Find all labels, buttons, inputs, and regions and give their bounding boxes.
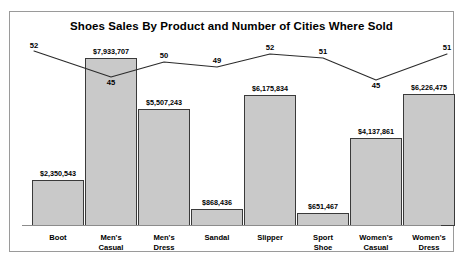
point-value-boot: 52 [16,41,52,50]
category-label-womens-dress: Women's Dress [395,233,463,252]
cities-polyline [34,51,447,80]
cities-line-series [10,12,453,251]
point-value-sandal: 49 [199,56,235,65]
point-value-sport-shoe: 51 [305,47,341,56]
chart-frame: Shoes Sales By Product and Number of Cit… [9,11,454,252]
plot-area: $2,350,543 $7,933,707 $5,507,243 $868,43… [10,12,453,251]
point-value-slipper: 52 [252,43,288,52]
point-value-mens-dress: 50 [146,51,182,60]
point-value-womens-dress: 51 [429,43,465,52]
point-value-womens-casual: 45 [358,81,394,90]
point-value-mens-casual: 45 [93,78,129,87]
axis-baseline [22,225,441,226]
